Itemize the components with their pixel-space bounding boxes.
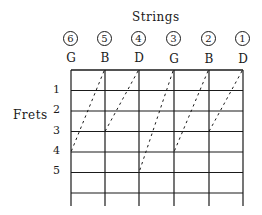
tuning-dash-4-to-5 xyxy=(105,71,138,132)
fretboard-grid xyxy=(0,0,262,215)
tuning-dash-3-to-4 xyxy=(139,71,173,173)
tuning-dash-1-to-2 xyxy=(209,71,242,132)
